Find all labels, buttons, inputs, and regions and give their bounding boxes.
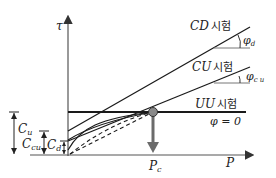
- p-axis-label: P: [225, 156, 235, 170]
- tau-axis-label: τ: [56, 19, 63, 33]
- cu-dim-arrow-down: [11, 148, 17, 154]
- phi-d-label: φd: [243, 34, 256, 48]
- pc-label: Pc: [148, 159, 162, 174]
- shear-strength-diagram: τ P Pc CD시험 φd CU시험 φc u UU시험 φ = 0 Cu C…: [0, 0, 276, 178]
- cu-intercept-label: Cu: [18, 122, 32, 137]
- cd-intercept-label: Cd: [47, 138, 61, 153]
- cd-dim-arrow-down: [62, 150, 66, 154]
- uu-test-label: UU시험: [195, 97, 237, 111]
- phi-zero-label: φ = 0: [210, 115, 241, 128]
- ccu-intercept-label: Ccu: [22, 137, 41, 152]
- phi-cu-label: φc u: [246, 70, 265, 84]
- cd-angle-arc: [238, 35, 240, 48]
- intersection-marker: [149, 108, 158, 117]
- cu-test-label: CU시험: [192, 60, 233, 74]
- pc-arrow-head: [147, 142, 159, 153]
- cd-dim-arrow-up: [62, 142, 66, 146]
- cd-test-label: CD시험: [190, 19, 231, 33]
- effective-stress-path-1: [68, 112, 153, 150]
- cu-angle-arc: [239, 76, 240, 83]
- cu-dim-arrow-up: [11, 113, 17, 119]
